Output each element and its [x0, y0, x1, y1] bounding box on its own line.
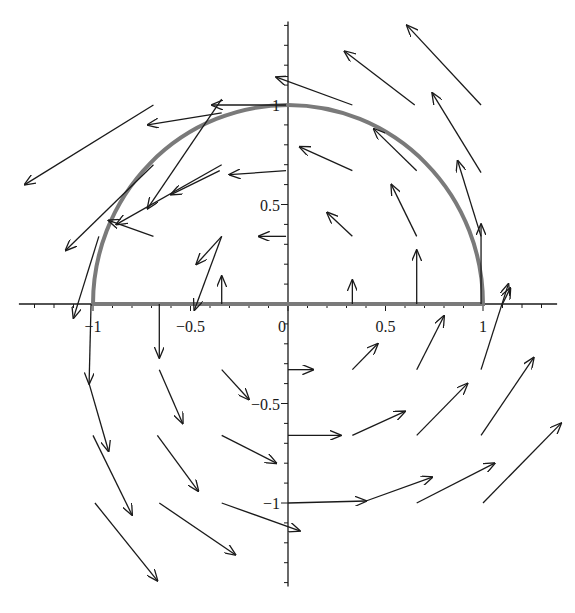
- vector-arrow: [222, 435, 277, 463]
- vector-arrow: [300, 147, 353, 171]
- vector-field-plot: −1−0.500.5110.5−0.5−1: [0, 0, 575, 613]
- vector-arrow: [327, 212, 352, 236]
- x-tick-label: −0.5: [176, 318, 205, 335]
- vector-arrow: [417, 384, 468, 436]
- vector-arrow: [366, 477, 432, 501]
- vector-arrow: [171, 171, 220, 195]
- vector-arrow: [432, 93, 481, 173]
- vector-arrow: [194, 236, 221, 310]
- vector-arrow: [25, 105, 154, 185]
- y-tick-label: −0.5: [251, 396, 280, 413]
- vector-arrow: [116, 165, 221, 225]
- x-tick-label: 0: [278, 318, 286, 335]
- vector-arrow: [481, 358, 534, 436]
- vector-arrow: [417, 463, 495, 503]
- vector-arrow: [222, 370, 249, 400]
- x-tick-label: 1: [479, 318, 487, 335]
- y-tick-label: 0.5: [260, 197, 280, 214]
- vector-arrow: [157, 435, 198, 491]
- x-tick-label: 0.5: [376, 318, 396, 335]
- vector-arrow: [352, 411, 405, 435]
- vector-arrow: [345, 51, 415, 105]
- vector-arrow: [391, 185, 416, 237]
- y-tick-label: 1: [272, 97, 280, 114]
- vector-arrow: [159, 503, 235, 555]
- vector-arrow: [93, 435, 132, 515]
- vector-arrow: [89, 384, 109, 452]
- vector-arrow: [109, 220, 154, 236]
- vector-arrow: [352, 344, 377, 370]
- vector-arrow: [288, 501, 366, 503]
- vector-arrow: [230, 171, 287, 175]
- vector-arrow: [95, 503, 157, 581]
- vector-arrow: [417, 316, 444, 370]
- y-tick-label: −1: [263, 495, 280, 512]
- vector-arrow: [196, 236, 221, 264]
- x-tick-label: −1: [84, 318, 101, 335]
- vector-arrow: [89, 304, 91, 384]
- vector-arrow: [407, 25, 481, 105]
- vector-arrow: [159, 370, 182, 424]
- vector-arrow: [458, 161, 481, 237]
- vector-arrow: [66, 165, 154, 251]
